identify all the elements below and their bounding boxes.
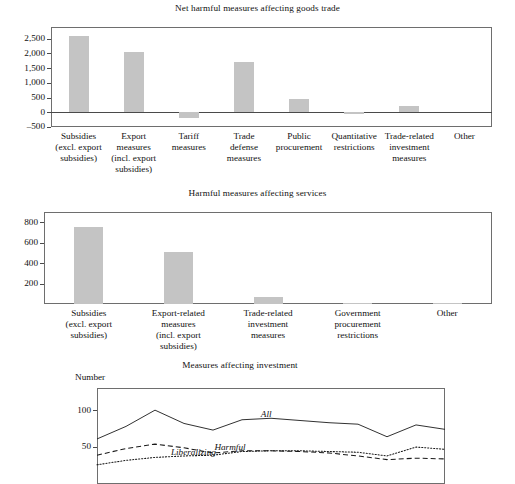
y-tick-mark: [40, 284, 44, 285]
y-tick-label: 600: [0, 238, 38, 247]
y-tick-mark: [47, 39, 51, 40]
bar: [399, 106, 419, 112]
x-axis-label: Other: [433, 131, 496, 142]
x-axis-label: Export measures (incl. export subsidies): [102, 131, 165, 175]
chart-panel-services: Harmful measures affecting services 2004…: [0, 185, 515, 355]
x-axis-label: Subsidies (excl. export subsidies): [47, 131, 110, 164]
y-tick-label: 500: [3, 93, 45, 102]
y-tick-mark: [47, 83, 51, 84]
series-label-liberalizing: Liberalizing: [171, 447, 216, 457]
x-axis-label: Trade-related investment measures: [378, 131, 441, 164]
y-tick-mark: [47, 53, 51, 54]
y-tick-label: 0: [3, 108, 45, 117]
y-tick-label: 1,500: [3, 64, 45, 73]
y-tick-label: 2,500: [3, 34, 45, 43]
chart-title-services: Harmful measures affecting services: [0, 188, 515, 198]
y-tick-mark: [40, 222, 44, 223]
y-tick-mark: [47, 127, 51, 128]
x-axis-label: Quantitative restrictions: [323, 131, 386, 153]
y-tick-label: 400: [0, 259, 38, 268]
bar: [289, 99, 309, 112]
line-series-group: [0, 355, 515, 463]
bar: [234, 62, 254, 112]
y-tick-mark: [40, 263, 44, 264]
bar: [74, 227, 103, 304]
x-axis-label: Export-related measures (incl. export su…: [130, 308, 228, 352]
y-tick-label: –500: [3, 122, 45, 131]
line-series-liberalizing: [97, 447, 445, 465]
y-tick-label: 800: [0, 218, 38, 227]
series-label-all: All: [261, 409, 272, 419]
y-tick-mark: [47, 98, 51, 99]
bar: [179, 112, 199, 118]
bar: [433, 303, 462, 305]
chart-title-goods: Net harmful measures affecting goods tra…: [0, 3, 515, 13]
x-axis-label: Government procurement restrictions: [309, 308, 407, 341]
line-series-harmful: [97, 444, 445, 460]
x-axis-label: Trade defense measures: [212, 131, 275, 164]
y-tick-mark: [47, 68, 51, 69]
x-axis-label: Other: [398, 308, 496, 319]
bar: [164, 252, 193, 304]
x-axis-label: Subsidies (excl. export subsidies): [40, 308, 138, 341]
chart-panel-investment: Measures affecting investment Number 501…: [0, 355, 515, 463]
plot-area-services: [44, 212, 492, 304]
x-axis-label: Tariff measures: [157, 131, 220, 153]
y-tick-label: 2,000: [3, 49, 45, 58]
y-tick-label: 1,000: [3, 78, 45, 87]
x-axis-label: Public procurement: [268, 131, 331, 153]
series-label-harmful: Harmful: [214, 442, 245, 452]
y-tick-label: 200: [0, 279, 38, 288]
bar: [124, 52, 144, 112]
y-tick-mark: [40, 243, 44, 244]
zero-line-goods: [51, 112, 492, 113]
bar: [254, 297, 283, 304]
y-tick-mark: [47, 112, 51, 113]
bar: [343, 303, 372, 305]
chart-panel-goods: Net harmful measures affecting goods tra…: [0, 0, 515, 185]
bar: [69, 36, 89, 112]
bar: [344, 112, 364, 114]
x-axis-label: Trade-related investment measures: [219, 308, 317, 341]
